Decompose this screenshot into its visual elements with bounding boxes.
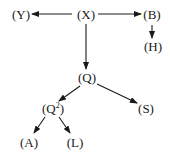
node-b: (B) bbox=[143, 8, 160, 22]
reaction-tree-diagram: (X) (Y) (B) (H) (Q) (Q2) (S) (A) (L) bbox=[0, 0, 170, 158]
node-l: (L) bbox=[67, 136, 84, 150]
node-q2: (Q2) bbox=[42, 102, 64, 116]
edge-q2-to-a bbox=[34, 117, 45, 133]
node-q: (Q) bbox=[78, 71, 96, 85]
edge-q2-to-l bbox=[59, 117, 70, 133]
edge-q-to-q2 bbox=[59, 86, 80, 101]
edge-q-to-s bbox=[97, 84, 137, 103]
node-a: (A) bbox=[20, 136, 38, 150]
node-y: (Y) bbox=[12, 8, 30, 22]
node-x: (X) bbox=[77, 8, 95, 22]
node-q2-end: ) bbox=[60, 101, 64, 116]
node-q2-base: (Q bbox=[42, 101, 56, 116]
node-h: (H) bbox=[144, 40, 162, 54]
node-s: (S) bbox=[138, 102, 154, 116]
